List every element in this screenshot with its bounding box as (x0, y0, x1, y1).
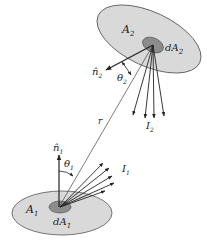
theta1-arc (59, 171, 73, 176)
label-theta1: θ1 (64, 158, 74, 171)
label-i2: I2 (145, 120, 154, 133)
label-n1: n̂1 (53, 142, 63, 155)
surface-2 (87, 0, 207, 87)
label-n2: n̂2 (92, 66, 102, 79)
radiation-diagram: A2 dA2 n̂2 θ2 I2 r n̂1 θ1 I1 A1 dA1 (0, 0, 207, 245)
label-r: r (98, 116, 103, 126)
theta2-arc (122, 62, 131, 75)
distance-line (59, 45, 153, 207)
label-theta2: θ2 (117, 72, 127, 85)
label-i1: I1 (121, 163, 130, 176)
diagram-svg: A2 dA2 n̂2 θ2 I2 r n̂1 θ1 I1 A1 dA1 (0, 0, 207, 245)
